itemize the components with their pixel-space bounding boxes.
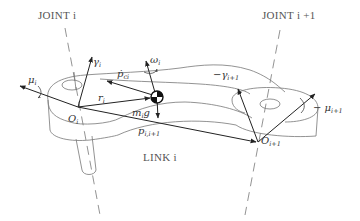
label-O-i1: Oi+1 <box>261 135 281 148</box>
label-neg-gamma-i1: −γi+1 <box>213 69 239 82</box>
vector-p-ci-dot <box>107 81 156 96</box>
label-O-i: Oi <box>68 113 78 126</box>
label-joint-i1: JOINT i +1 <box>262 9 316 21</box>
label-r-i: ri <box>98 92 105 105</box>
robot-link-diagram: JOINT i JOINT i +1 LINK i γi μi ṗci ωi r… <box>0 0 360 221</box>
label-p-i-i1: pi,i+1 <box>138 125 160 138</box>
link-body <box>48 65 318 175</box>
center-of-mass-icon <box>151 91 163 103</box>
label-p-ci-dot: ṗci <box>117 68 129 81</box>
label-link-i: LINK i <box>143 151 177 163</box>
label-joint-i: JOINT i <box>38 9 76 21</box>
vector-p-i-i1 <box>78 107 256 142</box>
label-gamma-i: γi <box>93 56 101 69</box>
vector-r-i <box>78 98 150 107</box>
label-omega-i: ωi <box>150 54 160 67</box>
label-mu-i: μi <box>28 74 37 87</box>
vector-neg-gamma-i1 <box>238 89 258 142</box>
